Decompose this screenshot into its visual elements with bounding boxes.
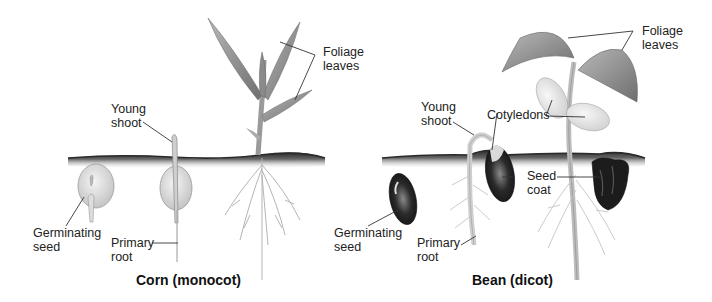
bean-label-germinating-seed: Germinating seed [334,226,402,254]
bean-label-cotyledons: Cotyledons [487,108,550,122]
bean-label-foliage-leaves: Foliage leaves [642,24,683,52]
corn-label-germinating-seed: Germinating seed [33,226,101,254]
corn-label-primary-root: Primary root [111,236,154,264]
corn-caption: Corn (monocot) [136,272,241,288]
corn-seed-germinating [78,164,114,208]
bean-caption: Bean (dicot) [472,272,553,288]
bean-foliage-leaf-right [578,49,637,102]
bean-label-primary-root: Primary root [417,236,460,264]
bean-label-young-shoot: Young shoot [421,100,456,128]
bean-seed-germinating [385,171,421,227]
corn-soil-line [68,153,325,169]
corn-label-foliage-leaves: Foliage leaves [323,45,364,73]
bean-foliage-leaf-left [502,32,574,72]
germination-diagram: Foliage leaves Young shoot Germinating s… [0,0,712,302]
corn-panel-art [68,18,325,280]
bean-label-seed-coat: Seed coat [527,169,556,197]
bean-seed-coat-shed [592,158,629,210]
corn-label-young-shoot: Young shoot [111,102,146,130]
